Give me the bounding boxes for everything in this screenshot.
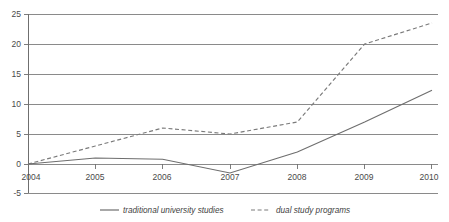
x-tick-label-2006: 2006 — [153, 172, 172, 182]
legend-label-traditional-university-studies: traditional university studies — [123, 206, 224, 215]
legend-label-dual-study-programs: dual study programs — [276, 206, 350, 215]
y-tick-labels: 25 20 15 10 5 0 -5 — [12, 9, 22, 198]
y-tick-label-0: 0 — [16, 159, 21, 169]
x-tick-label-2010: 2010 — [420, 172, 439, 182]
line-chart: 25 20 15 10 5 0 -5 2004 2005 2006 2007 2… — [0, 0, 449, 222]
chart-canvas: 25 20 15 10 5 0 -5 2004 2005 2006 2007 2… — [0, 0, 449, 222]
legend: traditional university studies dual stud… — [100, 206, 350, 215]
x-tick-label-2008: 2008 — [288, 172, 307, 182]
x-tick-label-2005: 2005 — [86, 172, 105, 182]
y-tick-label-10: 10 — [12, 99, 22, 109]
series-line-traditional-university-studies — [28, 90, 432, 173]
y-tick-label-minus5: -5 — [13, 188, 21, 198]
y-tick-label-5: 5 — [16, 129, 21, 139]
x-tick-label-2009: 2009 — [355, 172, 374, 182]
y-tick-marks — [24, 14, 28, 193]
y-tick-label-20: 20 — [12, 39, 22, 49]
x-tick-label-2004: 2004 — [22, 172, 41, 182]
x-tick-marks — [29, 164, 432, 169]
y-tick-label-15: 15 — [12, 69, 22, 79]
y-tick-label-25: 25 — [12, 9, 22, 19]
